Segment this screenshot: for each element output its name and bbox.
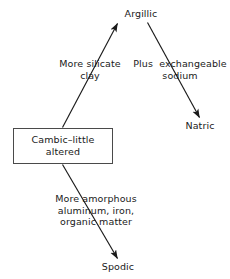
edge-label-plus-exchangeable-sodium: Plus exchangeable sodium — [132, 58, 228, 81]
node-argillic[interactable]: Argillic — [112, 8, 170, 20]
node-cambic-little-altered[interactable]: Cambic–little altered — [13, 128, 113, 164]
edge-label-more-amorphous-aluminum-iron-organic-matter: More amorphous aluminum, iron, organic m… — [44, 193, 148, 228]
soil-pathway-diagram: Cambic–little altered Argillic Natric Sp… — [0, 0, 230, 279]
node-natric[interactable]: Natric — [174, 120, 226, 132]
node-cambic-label: Cambic–little altered — [32, 134, 95, 158]
edge-label-more-silicate-clay: More silicate clay — [50, 58, 130, 81]
node-spodic[interactable]: Spodic — [92, 261, 144, 273]
